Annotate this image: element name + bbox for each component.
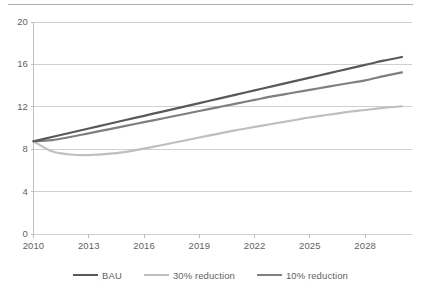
- x-tick-label-2022: 2022: [235, 240, 275, 251]
- legend-entry-bau[interactable]: BAU: [73, 270, 122, 281]
- y-tick-label-16: 16: [6, 58, 28, 69]
- x-tick-label-2019: 2019: [179, 240, 219, 251]
- x-tick-label-2013: 2013: [69, 240, 109, 251]
- y-tick-label-0: 0: [6, 228, 28, 239]
- legend-swatch-line-icon: [144, 274, 169, 277]
- y-tick-label-20: 20: [6, 16, 28, 27]
- y-tick-label-12: 12: [6, 101, 28, 112]
- legend-label: BAU: [102, 270, 122, 281]
- y-tick-label-4: 4: [6, 186, 28, 197]
- legend-entry-30-reduction[interactable]: 30% reduction: [144, 270, 235, 281]
- legend-entry-10-reduction[interactable]: 10% reduction: [257, 270, 348, 281]
- x-tick-label-2016: 2016: [124, 240, 164, 251]
- legend-swatch-line-icon: [73, 274, 98, 277]
- x-tick-label-2010: 2010: [14, 240, 54, 251]
- series-lines-group: [34, 57, 403, 155]
- x-tick-label-2025: 2025: [290, 240, 330, 251]
- chart-container: 048121620 2010201320162019202220252028 B…: [0, 0, 421, 293]
- series-line-30-reduction: [34, 106, 403, 155]
- chart-legend: BAU30% reduction10% reduction: [0, 264, 421, 286]
- x-tick-label-2028: 2028: [345, 240, 385, 251]
- legend-swatch-line-icon: [257, 274, 282, 277]
- legend-label: 10% reduction: [286, 270, 348, 281]
- series-line-bau: [34, 57, 403, 141]
- y-tick-label-8: 8: [6, 143, 28, 154]
- legend-label: 30% reduction: [173, 270, 235, 281]
